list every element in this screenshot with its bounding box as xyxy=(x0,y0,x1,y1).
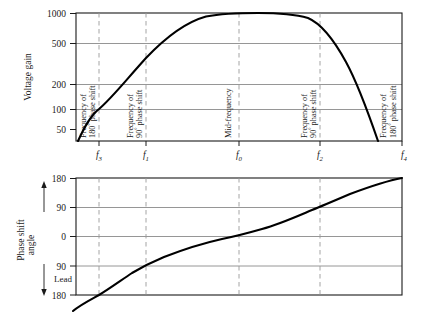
ytick-label-50: 50 xyxy=(57,125,67,135)
ytick-label-1000: 1000 xyxy=(47,9,66,19)
xtick-label-f2: f2 xyxy=(317,150,324,162)
phase-lead-label: Lead xyxy=(54,274,72,284)
xtick-f0-sub: 0 xyxy=(239,155,243,162)
ytick-label-200: 200 xyxy=(52,80,67,90)
annotation-f4-line2: 180° phase shift xyxy=(388,85,398,138)
xtick-f2-sub: 2 xyxy=(320,155,324,162)
voltage-gain-axis-title: Voltage gain xyxy=(23,53,33,101)
annotation-f0-line1: Mid-frequency xyxy=(224,87,233,138)
annotation-f2-deg-value: 90 xyxy=(309,130,318,138)
annotation-f3-deg-value: 180 xyxy=(88,126,97,138)
annotation-f2-phase-text: phase shift xyxy=(309,89,318,127)
annotation-f2-line2: 90° phase shift xyxy=(308,89,318,138)
xtick-label-f0: f0 xyxy=(236,150,243,162)
annotation-f3-phase-text: phase shift xyxy=(88,85,97,123)
xtick-label-f1: f1 xyxy=(143,150,149,162)
frequency-axis-labels: f3 f1 f0 f2 f4 xyxy=(96,150,408,162)
ytick-label-100: 100 xyxy=(52,105,67,115)
annotation-f4-deg-value: 180 xyxy=(389,126,398,138)
phase-ytick-label-180: 180 xyxy=(52,174,67,184)
xtick-f3-sub: 3 xyxy=(98,155,103,162)
annotation-f2-90-phase: Frequency of 90° phase shift xyxy=(300,89,318,138)
xtick-label-f3: f3 xyxy=(96,150,103,162)
annotation-f1-90-phase: Frequency of 90° phase shift xyxy=(126,89,144,138)
phase-down-arrow-icon xyxy=(41,264,46,296)
phase-shift-axis-title-line1: Phase shift xyxy=(16,219,26,261)
annotation-f4-180-phase: Frequency of 180° phase shift xyxy=(379,85,398,138)
phase-shift-chart: 180 90 0 90 180 Phase shift angle Lead xyxy=(16,174,402,311)
phase-up-arrow-icon xyxy=(41,181,46,212)
ytick-label-500: 500 xyxy=(52,39,67,49)
bode-plot-figure: 1000 500 200 100 50 Voltage gain Frequen… xyxy=(0,0,423,326)
phase-ytick-label-0: 0 xyxy=(61,232,66,242)
annotation-f3-180-phase: Frequency of 180° phase shift xyxy=(79,85,97,138)
frequency-axis-tickmarks xyxy=(99,141,402,146)
annotation-f1-deg-value: 90 xyxy=(135,130,144,138)
annotation-f4-phase-text: phase shift xyxy=(389,85,398,123)
annotation-f2-line1: Frequency of xyxy=(300,94,309,138)
voltage-gain-y-tickmarks xyxy=(70,14,76,130)
phase-ytick-label-90: 90 xyxy=(57,203,67,213)
xtick-label-f4: f4 xyxy=(401,150,408,162)
phase-shift-curve xyxy=(73,178,402,311)
xtick-f1-sub: 1 xyxy=(146,155,149,162)
xtick-f4-sub: 4 xyxy=(404,155,408,162)
voltage-gain-chart: 1000 500 200 100 50 Voltage gain Frequen… xyxy=(23,9,402,141)
annotation-f0-mid-frequency: Mid-frequency xyxy=(224,87,233,138)
annotation-f1-line2: 90° phase shift xyxy=(134,89,144,138)
annotation-f1-phase-text: phase shift xyxy=(135,89,144,127)
phase-ytick-label-minus-180: 180 xyxy=(52,291,67,301)
phase-shift-axis-title-line2: angle xyxy=(26,235,36,256)
annotation-f4-line1: Frequency of xyxy=(379,94,388,138)
phase-ytick-label-minus-90: 90 xyxy=(57,262,67,272)
annotation-f1-line1: Frequency of xyxy=(126,94,135,138)
